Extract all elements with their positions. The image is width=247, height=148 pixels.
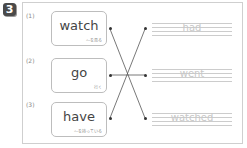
- left-dot[interactable]: [109, 27, 112, 30]
- right-dot[interactable]: [144, 74, 147, 77]
- left-dot[interactable]: [109, 74, 112, 77]
- answer-went: went: [152, 69, 232, 81]
- answer-text: had: [152, 22, 232, 33]
- answer-watched: watched: [152, 113, 232, 125]
- answer-had: had: [152, 23, 232, 35]
- answer-text: watched: [152, 112, 232, 123]
- left-dot[interactable]: [109, 117, 112, 120]
- right-dot[interactable]: [144, 27, 147, 30]
- right-dot[interactable]: [144, 117, 147, 120]
- answer-text: went: [152, 68, 232, 79]
